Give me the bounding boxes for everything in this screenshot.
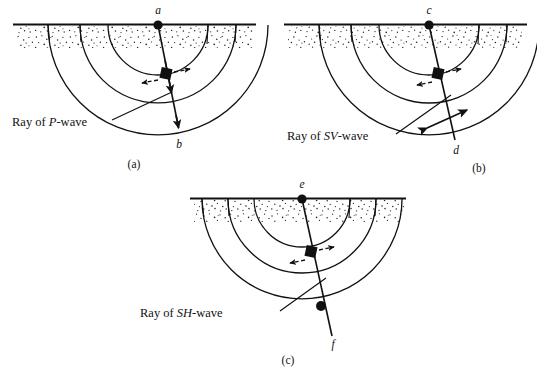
panel-a: a b Ray of P-wave (a) (0, 0, 268, 178)
ray-label-wave: P (48, 115, 57, 129)
source-label-c: c (426, 4, 431, 16)
seismic-wave-figure: a b Ray of P-wave (a) (0, 0, 537, 367)
soil-layer (17, 26, 253, 48)
ray-label-a: Ray of P-wave (12, 115, 87, 129)
source-label-a: a (155, 4, 161, 16)
ray-label-prefix: Ray of (140, 306, 177, 320)
ray-label-wave: SH (177, 306, 193, 320)
terminus-marker-d (427, 110, 467, 128)
ray-label-prefix: Ray of (287, 129, 324, 143)
soil-layer (288, 26, 522, 48)
ray-label-c: Ray of SH-wave (140, 306, 223, 320)
ray-label-b: Ray of SV-wave (287, 129, 369, 143)
ray-label-suffix: -wave (192, 306, 223, 320)
ray-label-suffix: -wave (338, 129, 369, 143)
panel-caption-b: (b) (472, 162, 486, 175)
terminus-marker-f (316, 301, 326, 311)
ray-label-leader (112, 92, 172, 120)
ray-label-leader (396, 95, 451, 134)
source-label-e: e (299, 178, 304, 190)
terminus-label-b: b (176, 138, 182, 150)
terminus-marker-b (176, 115, 179, 128)
terminus-label-d: d (453, 144, 459, 156)
particle-element-square (304, 245, 317, 258)
panel-caption-a: (a) (128, 158, 141, 171)
terminus-label-f: f (331, 338, 336, 351)
source-point-a (153, 20, 162, 29)
panel-c: e f Ray of SH-wave (c) (134, 178, 414, 367)
source-point-e (297, 194, 306, 203)
panel-b: c d Ray of SV-wave (b) (269, 0, 537, 178)
panel-caption-c: (c) (282, 354, 295, 367)
source-point-c (424, 20, 433, 29)
soil-layer (194, 200, 404, 222)
ray-label-suffix: -wave (56, 115, 87, 129)
particle-element-square (159, 67, 172, 80)
particle-element-square (431, 67, 444, 80)
ray-label-prefix: Ray of (12, 115, 49, 129)
